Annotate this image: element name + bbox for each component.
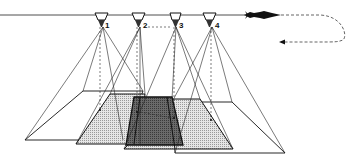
camera-label-1: 1 (105, 21, 110, 30)
aerial-photography-diagram: 1 2 3 4 (0, 0, 364, 163)
flight-path-turn (281, 15, 345, 42)
aircraft-icon (244, 11, 281, 19)
camera-label-3: 3 (179, 21, 184, 30)
return-arrow-icon (279, 40, 285, 45)
camera-label-4: 4 (215, 21, 220, 30)
camera-label-2: 2 (143, 21, 148, 30)
